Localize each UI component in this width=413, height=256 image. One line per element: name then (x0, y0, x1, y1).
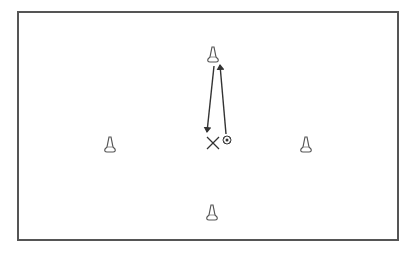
drill-diagram (0, 0, 413, 256)
cone-icon-left (105, 137, 116, 152)
arrow-pass-up (220, 65, 226, 134)
cone-icon-right (301, 137, 312, 152)
cone-icon-bottom (207, 205, 218, 220)
arrows-layer (207, 65, 226, 134)
arrow-run-down (207, 66, 214, 132)
cone-icon-top (208, 47, 219, 62)
cones-layer (105, 47, 312, 220)
ball-icon (223, 136, 231, 144)
player-marker (207, 137, 219, 149)
